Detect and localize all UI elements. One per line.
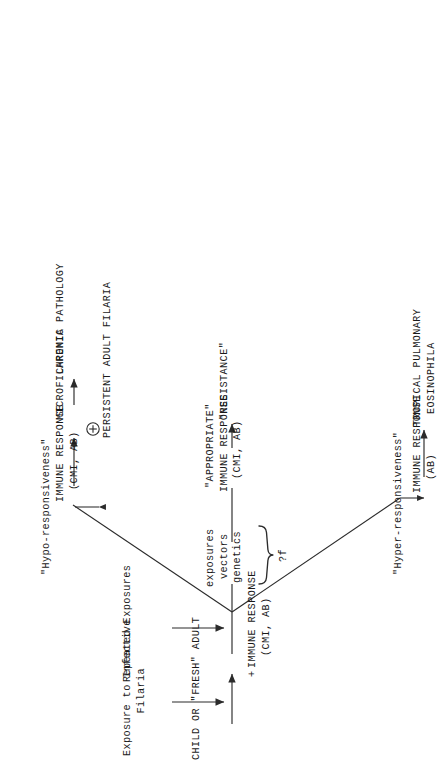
factor-genetics: genetics [231,531,245,583]
factor-condition: ?f [277,549,291,562]
label-repeated-exposures: Repeated Exposures [121,565,135,682]
node-hypo-outcome-line2: PERSISTENT ADULT FILARIA [101,282,115,438]
factor-exposures: exposures [204,528,218,587]
label-exposure-line2: Filaria [135,646,149,756]
node-primary-response: IMMUNE RESPONSE [246,570,260,668]
node-primary-plus: + [246,670,260,677]
factors-brace [259,526,273,584]
label-hypo-responsiveness: "Hypo-responsiveness" [40,438,54,575]
node-start: CHILD OR "FRESH" ADULT [190,724,204,760]
node-hyper-response-sub: (AB) [425,454,438,480]
factor-vectors: vectors [218,533,232,579]
node-mid-response-title: "APPROPRIATE" [204,403,218,488]
node-hyper-end-line2: EOSINOPHILA [425,342,438,414]
node-hyper-end-line1: TROPICAL PULMONARY [411,309,425,426]
node-primary-response-sub: (CMI, AB) [260,597,274,656]
label-hyper-responsiveness: "Hyper-responsiveness" [392,432,406,575]
node-mid-response-sub: (CMI, AB) [231,420,245,479]
node-hypo-end: CHRONIC PATHOLOGY [54,263,68,374]
node-hypo-response-sub: (CMI, AB) [68,431,82,490]
node-mid-end: "RESISTANCE" [218,342,232,420]
